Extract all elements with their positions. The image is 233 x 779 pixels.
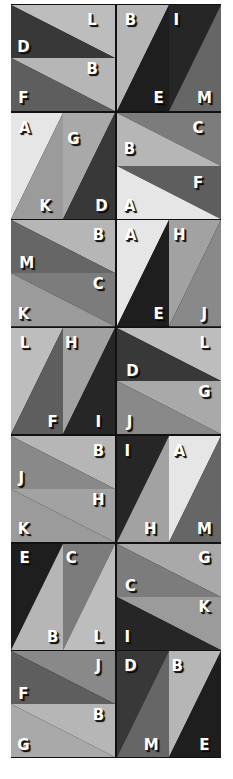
piece-label: L <box>20 335 30 350</box>
piece-label: H <box>144 522 157 537</box>
piece-label: K <box>40 199 52 214</box>
piece-label: F <box>18 91 28 106</box>
piece-label: L <box>94 629 104 644</box>
piece-label: B <box>93 443 104 458</box>
puzzle-tile: LDBF <box>11 5 115 111</box>
piece-label: L <box>200 335 210 350</box>
piece-label: F <box>193 175 203 190</box>
piece-label: K <box>18 522 30 537</box>
piece-label: J <box>96 659 102 674</box>
piece-label: H <box>92 492 105 507</box>
piece-label: D <box>95 199 107 214</box>
piece-label: K <box>18 306 30 321</box>
piece-label: I <box>125 629 131 644</box>
piece-label: B <box>93 228 104 243</box>
puzzle-board: LDBFBIEMAGKDCBFABMCKAHEJLHFILDGJBJHKIAHM… <box>11 4 221 758</box>
piece-label: B <box>86 61 97 76</box>
piece-label: G <box>198 551 210 566</box>
puzzle-tile: LDGJ <box>117 328 221 434</box>
piece-label: B <box>47 629 58 644</box>
piece-label: C <box>125 578 136 593</box>
piece-label: H <box>173 228 186 243</box>
piece-label: B <box>172 659 183 674</box>
piece-label: E <box>153 306 163 321</box>
piece-label: M <box>19 255 34 270</box>
puzzle-tile: GCKI <box>117 544 221 650</box>
piece-label: E <box>153 91 163 106</box>
puzzle-tile: AGKD <box>11 113 115 219</box>
puzzle-tile: IAHM <box>117 436 221 542</box>
piece-label: G <box>17 737 29 752</box>
piece-label: B <box>124 141 135 156</box>
puzzle-tile: BIEM <box>117 5 221 111</box>
puzzle-tile: DBME <box>117 651 221 757</box>
piece-label: K <box>199 600 211 615</box>
piece-label: C <box>66 551 77 566</box>
piece-label: I <box>125 443 131 458</box>
piece-label: E <box>199 737 209 752</box>
puzzle-tile: JFBG <box>11 651 115 757</box>
piece-label: A <box>174 443 186 458</box>
piece-label: I <box>173 12 179 27</box>
puzzle-tile: ECBL <box>11 544 115 650</box>
puzzle-tile: BJHK <box>11 436 115 542</box>
piece-label: D <box>126 363 138 378</box>
piece-label: F <box>18 686 28 701</box>
piece-label: C <box>93 277 104 292</box>
piece-label: H <box>65 335 78 350</box>
piece-label: B <box>125 12 136 27</box>
piece-label: D <box>124 659 136 674</box>
piece-label: I <box>96 414 102 429</box>
piece-label: A <box>124 199 136 214</box>
piece-label: M <box>197 522 212 537</box>
puzzle-tile: AHEJ <box>117 220 221 326</box>
piece-label: M <box>144 737 159 752</box>
piece-label: L <box>87 12 97 27</box>
piece-label: J <box>202 306 208 321</box>
piece-label: A <box>125 228 137 243</box>
piece-label: J <box>127 414 133 429</box>
piece-label: B <box>93 707 104 722</box>
puzzle-tile: BMCK <box>11 220 115 326</box>
piece-label: M <box>197 91 212 106</box>
puzzle-tile: LHFI <box>11 328 115 434</box>
piece-label: F <box>47 414 57 429</box>
piece-label: D <box>17 40 29 55</box>
piece-label: G <box>198 384 210 399</box>
piece-label: J <box>19 471 25 486</box>
puzzle-tile: CBFA <box>117 113 221 219</box>
piece-label: A <box>19 120 31 135</box>
piece-label: C <box>193 120 204 135</box>
piece-label: E <box>19 551 29 566</box>
piece-label: G <box>67 132 79 147</box>
